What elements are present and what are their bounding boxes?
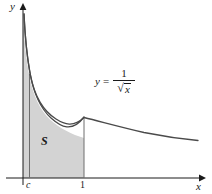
x-tick-label-one: 1 <box>80 180 85 190</box>
equation-equals-sign: = <box>103 76 109 87</box>
function-equation-annotation: y = 1 √ x <box>95 68 135 95</box>
figure-container: y x c 1 S y = 1 √ x <box>0 0 212 194</box>
equation-numerator: 1 <box>118 68 130 80</box>
y-axis-label: y <box>10 1 15 12</box>
y-axis-arrowhead <box>20 3 27 10</box>
equation-denominator: √ x <box>114 81 133 95</box>
x-tick-label-c: c <box>26 180 30 190</box>
x-axis-label: x <box>196 181 201 192</box>
region-label-s: S <box>41 135 48 147</box>
radical-sign-glyph: √ <box>117 82 124 95</box>
equation-radicand: x <box>124 83 131 95</box>
plot-area <box>0 0 212 194</box>
curve-stroke-right <box>84 118 198 141</box>
equation-fraction: 1 √ x <box>113 68 135 95</box>
shaded-region-s <box>23 16 84 178</box>
equation-lhs: y <box>95 76 100 87</box>
square-root-icon: √ x <box>117 82 130 95</box>
